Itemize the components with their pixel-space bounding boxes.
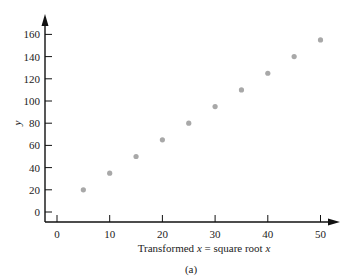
- data-point: [107, 171, 112, 176]
- y-tick-label: 0: [35, 206, 41, 218]
- x-tick-label: 0: [54, 228, 60, 240]
- x-tick-label: 20: [157, 228, 169, 240]
- y-tick-label: 60: [29, 139, 41, 151]
- x-axis-label: Transformed x = square root x: [138, 242, 271, 254]
- data-point: [318, 37, 323, 42]
- x-tick-label: 50: [315, 228, 327, 240]
- figure-caption: (a): [185, 263, 198, 276]
- y-tick-label: 40: [29, 162, 41, 174]
- data-point: [81, 187, 86, 192]
- data-points: [81, 37, 323, 192]
- data-point: [133, 154, 138, 159]
- data-point: [160, 137, 165, 142]
- data-point: [213, 104, 218, 109]
- data-point: [292, 54, 297, 59]
- x-tick-label: 10: [104, 228, 116, 240]
- y-tick-label: 120: [24, 73, 41, 85]
- data-point: [186, 121, 191, 126]
- data-point: [265, 71, 270, 76]
- y-tick-label: 80: [29, 117, 41, 129]
- y-tick-label: 20: [29, 184, 41, 196]
- axes: 02040608010012014016001020304050: [24, 14, 341, 240]
- y-tick-label: 160: [24, 28, 41, 40]
- y-tick-label: 140: [24, 51, 41, 63]
- x-tick-label: 30: [210, 228, 222, 240]
- x-tick-label: 40: [262, 228, 274, 240]
- scatter-chart: 02040608010012014016001020304050 Transfo…: [0, 0, 352, 278]
- y-tick-label: 100: [24, 95, 41, 107]
- data-point: [239, 87, 244, 92]
- x-axis-arrow-icon: [328, 219, 340, 226]
- y-axis-label: y: [11, 120, 23, 126]
- y-axis-arrow-icon: [42, 14, 49, 26]
